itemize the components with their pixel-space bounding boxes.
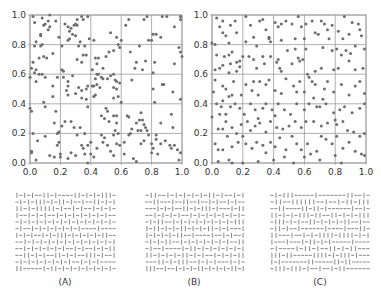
data-point: [224, 113, 227, 116]
data-point: [173, 62, 176, 65]
data-point: [82, 147, 85, 150]
data-point: [308, 76, 311, 79]
data-point: [159, 36, 162, 39]
data-point: [164, 139, 167, 142]
data-point: [32, 61, 35, 64]
data-point: [308, 102, 311, 105]
data-point: [227, 53, 230, 56]
data-point: [74, 154, 77, 157]
data-point: [335, 123, 338, 126]
data-point: [153, 101, 156, 104]
left-scatter-plot: 0.00.20.40.60.81.00.00.20.40.60.81.0: [12, 10, 190, 177]
data-point: [129, 51, 132, 54]
data-point: [332, 90, 335, 93]
data-point: [323, 88, 326, 91]
data-point: [221, 148, 224, 151]
data-point: [80, 61, 83, 64]
data-point: [337, 30, 340, 33]
data-point: [301, 58, 304, 61]
data-point: [252, 36, 255, 39]
data-point: [261, 18, 264, 21]
data-point: [360, 153, 363, 156]
data-point: [247, 55, 250, 58]
data-point: [257, 160, 260, 163]
data-point: [335, 48, 338, 51]
data-point: [44, 135, 47, 138]
data-point: [303, 37, 306, 40]
x-tick-label: 0.4: [266, 167, 281, 177]
data-point: [117, 95, 120, 98]
data-point: [275, 126, 278, 129]
data-point: [306, 73, 309, 76]
data-point: [146, 15, 149, 18]
data-point: [101, 77, 104, 80]
data-point: [234, 102, 237, 105]
data-point: [269, 141, 272, 144]
data-point: [335, 135, 338, 138]
data-point: [177, 46, 180, 49]
data-point: [274, 89, 277, 92]
data-point: [138, 45, 141, 48]
data-point: [91, 68, 94, 71]
data-point: [269, 40, 272, 43]
y-tick-label: 0.2: [12, 128, 26, 138]
data-point: [358, 107, 361, 110]
data-point: [97, 73, 100, 76]
data-point: [244, 40, 247, 43]
data-point: [109, 74, 112, 77]
x-tick-label: 0.6: [114, 167, 129, 177]
data-point: [83, 45, 86, 48]
data-point: [348, 33, 351, 36]
data-point: [295, 90, 298, 93]
data-point: [95, 62, 98, 65]
data-point: [241, 55, 244, 58]
data-point: [278, 67, 281, 70]
x-tick-label: 0.8: [328, 167, 343, 177]
data-point: [218, 67, 221, 70]
data-point: [241, 162, 244, 165]
data-point: [118, 46, 121, 49]
data-point: [337, 67, 340, 70]
x-tick-label: 0.0: [23, 167, 38, 177]
data-point: [294, 48, 297, 51]
data-point: [42, 55, 45, 58]
data-point: [363, 48, 366, 51]
data-point: [257, 93, 260, 96]
data-point: [221, 85, 224, 88]
data-point: [240, 123, 243, 126]
data-point: [117, 43, 120, 46]
y-tick-label: 0.0: [194, 158, 209, 168]
data-point: [56, 76, 59, 79]
data-point: [135, 61, 138, 64]
data-point: [118, 144, 121, 147]
data-point: [214, 79, 217, 82]
data-point: [258, 122, 261, 125]
data-point: [344, 49, 347, 52]
data-point: [255, 67, 258, 70]
data-point: [120, 39, 123, 42]
data-point: [318, 105, 321, 108]
data-point: [331, 142, 334, 145]
data-point: [68, 37, 71, 40]
y-tick-label: 1.0: [12, 10, 27, 20]
data-point: [106, 110, 109, 113]
data-point: [89, 141, 92, 144]
data-point: [133, 67, 136, 70]
data-point: [289, 113, 292, 116]
data-point: [70, 151, 73, 154]
data-point: [341, 120, 344, 123]
data-point: [127, 18, 130, 21]
data-point: [135, 122, 138, 125]
data-point: [284, 77, 287, 80]
data-point: [152, 71, 155, 74]
data-point: [150, 142, 153, 145]
data-point: [280, 22, 283, 25]
x-tick-label: 0.4: [84, 167, 99, 177]
data-point: [156, 153, 159, 156]
data-point: [103, 136, 106, 139]
data-point: [251, 89, 254, 92]
data-point: [85, 53, 88, 56]
data-point: [95, 83, 98, 86]
data-point: [244, 142, 247, 145]
data-point: [179, 151, 182, 154]
